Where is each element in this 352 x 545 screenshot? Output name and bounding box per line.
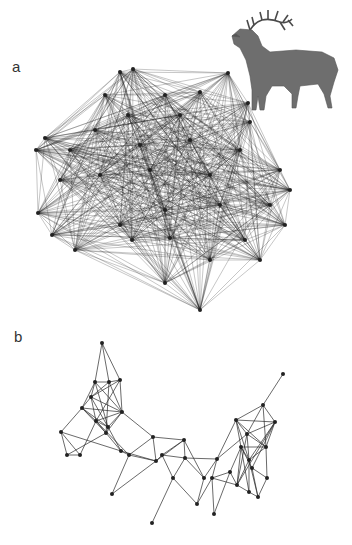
network-node [195, 502, 199, 506]
network-edge [122, 412, 153, 437]
network-node [198, 90, 202, 94]
network-edge [204, 459, 217, 478]
network-node [78, 453, 82, 457]
network-node [73, 248, 77, 252]
network-edge [212, 472, 230, 478]
network-node [202, 476, 206, 480]
network-node [107, 380, 111, 384]
network-node [234, 418, 238, 422]
network-node [283, 223, 287, 227]
network-node [273, 420, 277, 424]
network-edge [109, 382, 122, 412]
network-node [138, 143, 142, 147]
network-node [36, 211, 40, 215]
network-node [168, 236, 172, 240]
network-node [65, 453, 69, 457]
network-node [93, 128, 97, 132]
network-node [212, 512, 216, 516]
network-edge [197, 478, 212, 504]
network-node [110, 492, 114, 496]
antlers-icon [247, 10, 293, 30]
network-node [188, 138, 192, 142]
network-node [118, 223, 122, 227]
network-node [208, 173, 212, 177]
network-node [150, 521, 154, 525]
network-edge [228, 73, 248, 103]
network-node [160, 453, 164, 457]
network-edge [249, 447, 266, 460]
network-b-edges [61, 343, 283, 523]
network-node [59, 430, 63, 434]
network-node [278, 168, 282, 172]
network-edge [112, 461, 156, 494]
network-node [245, 432, 249, 436]
network-node [235, 483, 239, 487]
network-node [178, 113, 182, 117]
network-node [228, 470, 232, 474]
network-node [106, 425, 110, 429]
network-node [120, 410, 124, 414]
network-edge [252, 468, 267, 478]
network-node [183, 456, 187, 460]
network-node [163, 208, 167, 212]
network-node [243, 238, 247, 242]
network-node [163, 93, 167, 97]
network-node [256, 495, 260, 499]
network-node [50, 233, 54, 237]
network-edge [61, 408, 82, 432]
network-edge [38, 180, 60, 213]
network-node [248, 120, 252, 124]
network-edge [95, 343, 102, 382]
network-edge [184, 440, 185, 458]
network-edge [214, 472, 230, 514]
network-edge [200, 260, 210, 310]
network-node [215, 457, 219, 461]
network-node [100, 341, 104, 345]
network-edge [237, 485, 249, 492]
network-node [182, 438, 186, 442]
network-edge [248, 103, 285, 225]
network-node [264, 445, 268, 449]
network-node [68, 148, 72, 152]
network-edge [153, 437, 156, 461]
network-edge [173, 478, 197, 504]
network-node [127, 453, 131, 457]
network-node [119, 449, 123, 453]
network-node [93, 380, 97, 384]
network-node [151, 435, 155, 439]
network-node [118, 378, 122, 382]
network-edge [121, 451, 156, 461]
network-edge [75, 250, 260, 260]
network-edge [162, 455, 185, 458]
network-node [131, 67, 135, 71]
network-edge [80, 421, 96, 455]
network-edge [252, 468, 258, 497]
network-edge [285, 190, 290, 225]
network-node [98, 173, 102, 177]
network-edge [102, 343, 120, 380]
network-edge [200, 260, 260, 310]
network-node [94, 419, 98, 423]
elk-illustration [232, 10, 338, 110]
network-node [288, 188, 292, 192]
network-node [118, 70, 122, 74]
network-node [261, 403, 265, 407]
network-node [239, 445, 243, 449]
network-node [258, 258, 262, 262]
network-node [198, 308, 202, 312]
network-edge [212, 459, 217, 478]
network-edge [162, 455, 173, 478]
network-edge [184, 440, 204, 478]
network-edge [258, 478, 267, 497]
network-node [89, 395, 93, 399]
network-node [163, 281, 167, 285]
network-edge [162, 440, 184, 455]
network-edge [82, 408, 108, 427]
network-node [246, 101, 250, 105]
network-edge [237, 422, 275, 485]
network-node [130, 238, 134, 242]
network-edge [197, 478, 204, 504]
network-node [80, 406, 84, 410]
network-edge [75, 250, 165, 283]
network-edge [95, 95, 105, 130]
